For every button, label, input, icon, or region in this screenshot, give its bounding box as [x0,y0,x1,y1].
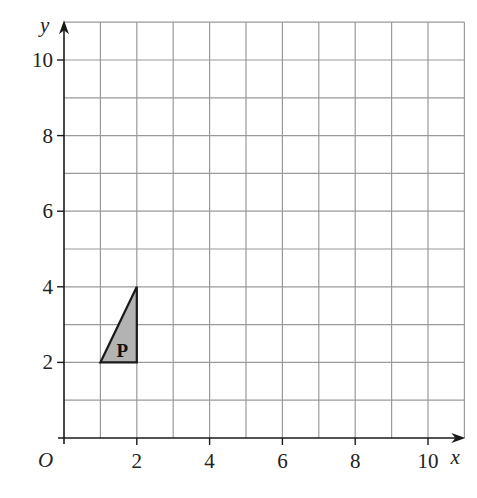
tick-labels: 246810246810 [32,48,439,473]
grid-lines [64,22,464,438]
y-axis-label: y [38,13,50,37]
x-tick-label: 6 [277,449,288,473]
axes [58,20,465,444]
y-tick-label: 8 [43,124,54,148]
x-tick-label: 8 [350,449,361,473]
x-tick-label: 10 [418,449,439,473]
y-tick-label: 4 [43,275,54,299]
shape-label-P: P [116,340,128,361]
y-tick-label: 6 [43,199,54,223]
tick-marks [57,60,428,445]
x-axis-label: x [449,445,460,469]
x-tick-label: 4 [204,449,215,473]
origin-label: O [38,448,53,472]
coordinate-grid: P 246810246810 x y O [0,0,477,498]
y-tick-label: 2 [43,350,54,374]
x-tick-label: 2 [132,449,143,473]
y-tick-label: 10 [32,48,53,72]
